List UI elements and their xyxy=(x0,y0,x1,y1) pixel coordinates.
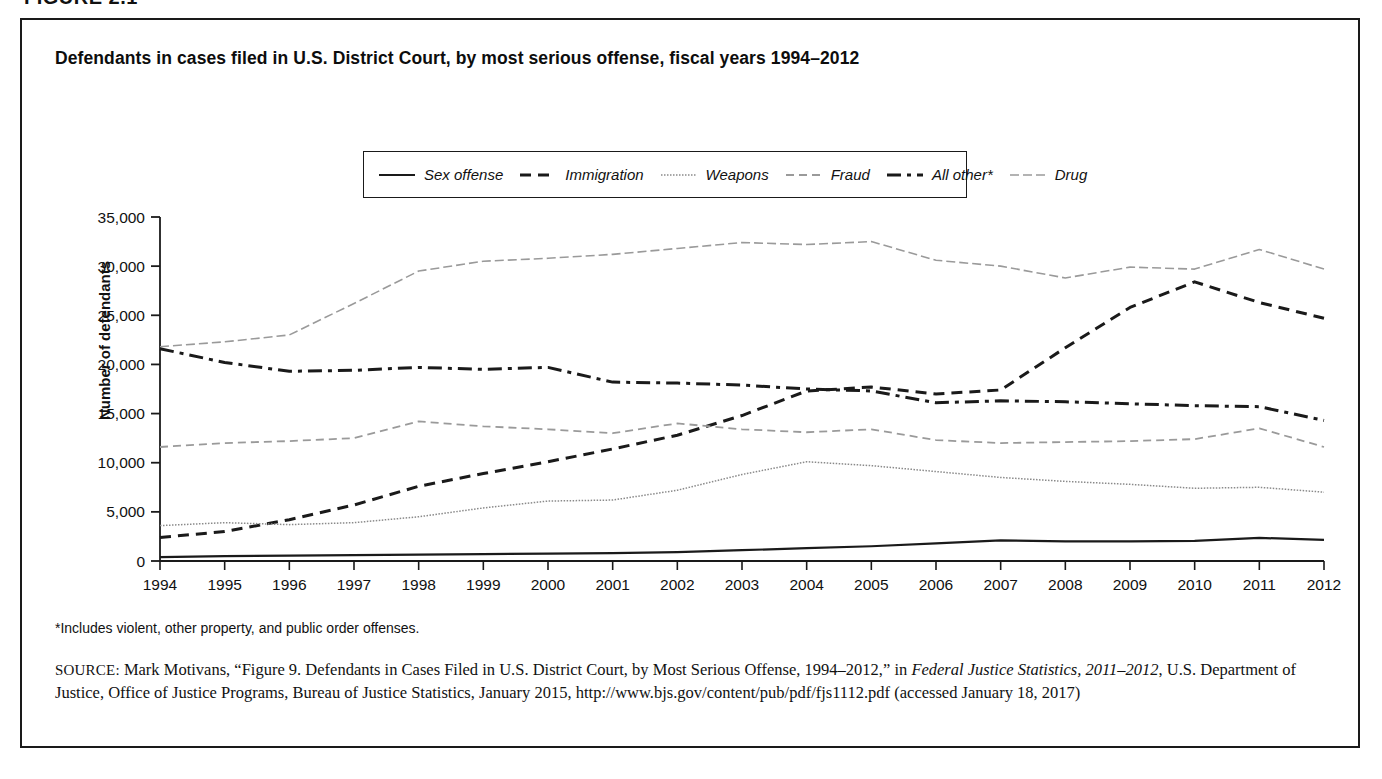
legend-swatch-icon xyxy=(886,168,924,182)
series-line-weapons xyxy=(160,462,1324,526)
legend-swatch-icon xyxy=(519,168,557,182)
series-line-immigration xyxy=(160,282,1324,538)
legend-label: Immigration xyxy=(565,166,643,183)
legend-swatch-icon xyxy=(378,168,416,182)
series-line-all-other xyxy=(160,349,1324,421)
x-axis-tick-label: 2002 xyxy=(660,576,694,593)
chart-legend: Sex offenseImmigrationWeaponsFraudAll ot… xyxy=(363,151,967,198)
x-axis-tick-label: 2012 xyxy=(1307,576,1341,593)
figure-label: FIGURE 2.1 xyxy=(24,0,138,8)
x-axis-tick-label: 2000 xyxy=(531,576,566,593)
legend-item-weapons: Weapons xyxy=(660,166,769,183)
legend-swatch-icon xyxy=(660,168,698,182)
legend-item-fraud: Fraud xyxy=(785,166,870,183)
x-axis-tick-label: 1996 xyxy=(272,576,306,593)
y-axis-tick-label: 0 xyxy=(136,553,145,570)
source-prefix: SOURCE: xyxy=(55,662,120,678)
x-axis-tick-label: 1998 xyxy=(401,576,435,593)
legend-item-drug: Drug xyxy=(1009,166,1088,183)
legend-label: Drug xyxy=(1055,166,1088,183)
legend-swatch-icon xyxy=(785,168,823,182)
figure-panel: Defendants in cases filed in U.S. Distri… xyxy=(20,18,1360,748)
y-axis-tick-label: 5,000 xyxy=(106,503,145,520)
y-axis-tick-label: 10,000 xyxy=(98,454,146,471)
x-axis-tick-label: 1999 xyxy=(466,576,500,593)
chart-plot-area: 05,00010,00015,00020,00025,00030,00035,0… xyxy=(22,20,1362,750)
x-axis-tick-label: 2007 xyxy=(983,576,1017,593)
source-text-1: Mark Motivans, “Figure 9. Defendants in … xyxy=(120,660,912,679)
series-line-sex-offense xyxy=(160,538,1324,557)
x-axis-tick-label: 2003 xyxy=(725,576,759,593)
x-axis-tick-label: 2004 xyxy=(789,576,824,593)
x-axis-tick-label: 1997 xyxy=(337,576,371,593)
x-axis-tick-label: 1994 xyxy=(143,576,178,593)
x-axis-tick-label: 2010 xyxy=(1177,576,1212,593)
legend-swatch-icon xyxy=(1009,168,1047,182)
series-line-drug xyxy=(160,242,1324,347)
x-axis-tick-label: 2011 xyxy=(1243,576,1276,593)
x-axis-tick-label: 2008 xyxy=(1048,576,1082,593)
legend-item-sex-offense: Sex offense xyxy=(378,166,503,183)
y-axis-tick-label: 35,000 xyxy=(98,209,146,226)
series-line-fraud xyxy=(160,421,1324,447)
x-axis-tick-label: 2005 xyxy=(854,576,888,593)
legend-label: Weapons xyxy=(706,166,769,183)
x-axis-tick-label: 1995 xyxy=(207,576,241,593)
page-title: Defendants in cases filed in U.S. Distri… xyxy=(55,48,859,69)
line-chart: 05,00010,00015,00020,00025,00030,00035,0… xyxy=(22,20,1362,620)
footnote: *Includes violent, other property, and p… xyxy=(55,620,419,636)
x-axis-tick-label: 2001 xyxy=(595,576,629,593)
legend-label: Sex offense xyxy=(424,166,503,183)
legend-item-immigration: Immigration xyxy=(519,166,643,183)
legend-item-all-other: All other* xyxy=(886,166,993,183)
y-axis-title: Number of defendants xyxy=(96,251,113,431)
x-axis-tick-label: 2009 xyxy=(1113,576,1147,593)
legend-label: All other* xyxy=(932,166,993,183)
source-title-italic: Federal Justice Statistics, 2011–2012 xyxy=(911,660,1158,679)
source-note: SOURCE: Mark Motivans, “Figure 9. Defend… xyxy=(55,658,1340,705)
legend-label: Fraud xyxy=(831,166,870,183)
x-axis-tick-label: 2006 xyxy=(919,576,953,593)
